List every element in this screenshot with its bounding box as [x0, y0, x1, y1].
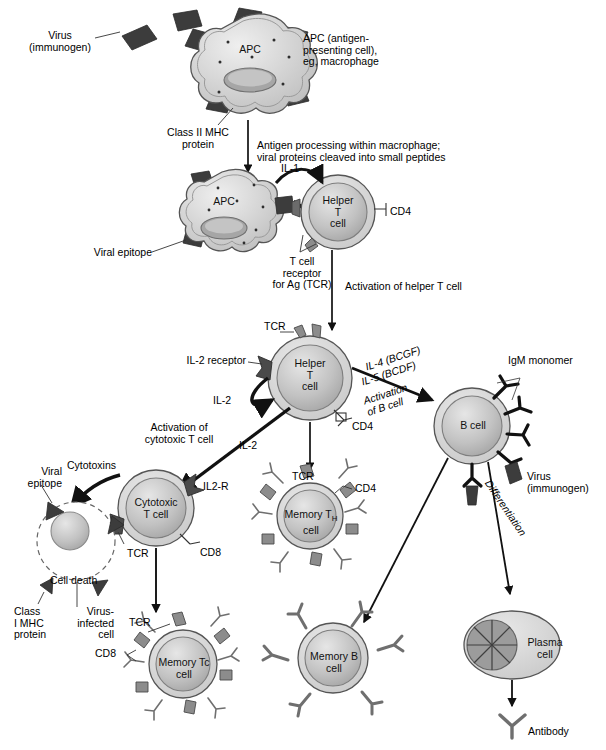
label-il-1: IL-1 [281, 163, 299, 175]
memory-th-text: Memory T [285, 508, 332, 520]
tcr-receptor-center-a [294, 325, 306, 338]
presented-epitope [275, 196, 294, 214]
label-il2-diagonal: IL-2 [239, 440, 257, 452]
label-tcr-for-ag: T cell receptor for Ag (TCR) [258, 256, 346, 291]
label-cd8-memory-tc: CD8 [95, 648, 116, 660]
memory-th-subscript: H [332, 514, 338, 523]
label-activation-helper-t: Activation of helper T cell [345, 281, 462, 293]
label-il2-receptor: IL-2 receptor [148, 355, 246, 367]
label-memory-tc-cell: Memory Tc cell [148, 657, 220, 680]
label-activation-cytotoxic: Activation of cytotoxic T cell [126, 422, 232, 445]
cd4-marker-upper [374, 203, 386, 216]
plasma-nucleus-spokes [467, 620, 517, 670]
label-helper-t-cell-center: Helper T cell [288, 358, 332, 393]
label-virus-infected-cell: Virus- infected cell [56, 606, 114, 641]
label-viral-epitope-left: Viral epitope [0, 466, 62, 489]
tcr-receptor-upper [292, 199, 300, 217]
virus-particle-b-cell-2 [466, 486, 478, 505]
label-tcr-cytotoxic: TCR [127, 548, 149, 560]
antibody-icon [500, 715, 525, 738]
label-tcr-helper: TCR [264, 321, 286, 333]
label-antigen-processing: Antigen processing within macrophage; vi… [257, 140, 557, 163]
il2-receptor-marker [256, 356, 272, 380]
label-cd4-memory-th: CD4 [355, 483, 376, 495]
label-virus-top: Virus (immunogen) [20, 30, 100, 53]
leader-class-i-mhc [38, 592, 44, 604]
label-tcr-memory-th: TCR [292, 471, 314, 483]
virus-particle-b-cell [505, 462, 522, 484]
label-plasma-cell: Plasma cell [520, 637, 570, 660]
arrow-cytotoxins [72, 475, 120, 506]
il2r-marker [184, 474, 204, 496]
label-helper-t-cell-upper: Helper T cell [316, 195, 360, 230]
cd4-marker-center [334, 410, 352, 426]
tcr-receptor-center-b [312, 324, 321, 338]
label-class-ii-mhc: Class II MHC protein [152, 127, 244, 150]
label-cd4-upper: CD4 [390, 206, 411, 218]
infected-cell-nucleus [51, 512, 89, 550]
diagram-canvas: Virus (immunogen) APC APC (antigen- pres… [0, 0, 606, 750]
arrow-bcell-to-memory-b [364, 458, 448, 622]
label-b-cell: B cell [450, 420, 496, 432]
label-il2-left: IL-2 [213, 395, 231, 407]
label-igm-monomer: IgM monomer [508, 355, 573, 367]
label-il2-r: IL2-R [203, 481, 229, 493]
label-apc-top-name: APC [228, 44, 272, 56]
apc-second-cell [179, 169, 304, 251]
label-apc-description: APC (antigen- presenting cell), eg, macr… [303, 33, 433, 68]
leader-viral-epitope-top [152, 240, 186, 252]
label-cytotoxins: Cytotoxins [67, 460, 116, 472]
label-antibody: Antibody [528, 726, 569, 738]
apc-top-cell [185, 8, 317, 113]
label-cd4-center: CD4 [352, 421, 373, 433]
label-virus-b-cell: Virus (immunogen) [527, 471, 603, 494]
memory-th-text-2: cell [303, 524, 319, 536]
label-apc-second-name: APC [202, 196, 246, 208]
label-memory-b-cell: Memory B cell [298, 651, 370, 674]
label-memory-th-cell: Memory THcell [275, 509, 347, 536]
label-tcr-memory-tc: TCR [129, 617, 151, 629]
label-cell-death: Cell death [50, 575, 97, 587]
label-viral-epitope-top: Viral epitope [62, 247, 152, 259]
leader-igm [497, 378, 520, 400]
label-cd8-cytotoxic: CD8 [200, 547, 221, 559]
label-cytotoxic-t-cell: Cytotoxic T cell [123, 497, 189, 520]
